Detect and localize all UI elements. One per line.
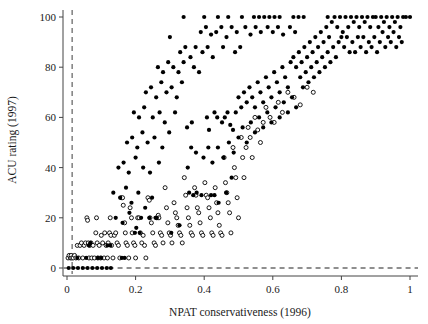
data-point-filled [294, 105, 298, 109]
data-point-filled [356, 35, 360, 39]
data-point-filled [180, 80, 184, 84]
data-point-filled [219, 25, 223, 29]
data-point-filled [280, 65, 284, 69]
data-point-filled [207, 128, 211, 132]
data-point-open [191, 233, 195, 237]
data-point-open [197, 211, 201, 215]
data-point-filled [253, 105, 257, 109]
data-point-filled [163, 120, 167, 124]
data-point-open [226, 201, 230, 205]
data-point-open [160, 233, 164, 237]
data-point-open [234, 176, 238, 180]
data-point-filled [238, 45, 242, 49]
data-point-filled [75, 256, 79, 260]
data-point-filled [195, 191, 199, 195]
data-point-filled [316, 45, 320, 49]
data-point-open [180, 241, 184, 245]
data-point-filled [132, 110, 136, 114]
data-point-filled [339, 35, 343, 39]
data-point-filled [142, 105, 146, 109]
data-point-filled [139, 216, 143, 220]
data-point-filled [353, 50, 357, 54]
data-point-open [133, 243, 137, 247]
data-point-open [223, 181, 227, 185]
data-point-open [123, 231, 127, 235]
data-point-filled [230, 176, 234, 180]
data-point-filled [265, 110, 269, 114]
data-point-open [170, 241, 174, 245]
plot-canvas: 02040608010000.20.40.60.81 NPAT conserva… [0, 0, 428, 324]
data-point-filled [233, 50, 237, 54]
data-point-open [216, 211, 220, 215]
data-point-open [114, 231, 118, 235]
data-point-open [193, 186, 197, 190]
data-point-filled [252, 15, 256, 19]
data-point-filled [286, 85, 290, 89]
data-point-filled [105, 266, 109, 270]
data-point-filled [230, 25, 234, 29]
data-point-open [246, 125, 250, 129]
data-point-open [242, 176, 246, 180]
data-point-filled [278, 90, 282, 94]
data-point-open [184, 193, 188, 197]
data-point-filled [127, 171, 131, 175]
data-point-filled [177, 223, 181, 227]
data-point-filled [282, 100, 286, 104]
data-point-filled [194, 150, 198, 154]
data-point-filled [156, 65, 160, 69]
data-point-filled [221, 155, 225, 159]
data-point-filled [235, 30, 239, 34]
data-point-filled [310, 50, 314, 54]
data-point-filled [134, 155, 138, 159]
data-point-open [198, 221, 202, 225]
data-point-filled [167, 130, 171, 134]
data-point-filled [146, 140, 150, 144]
data-point-filled [254, 25, 258, 29]
data-point-filled [276, 25, 280, 29]
data-point-filled [135, 145, 139, 149]
data-point-filled [216, 145, 220, 149]
data-point-filled [232, 150, 236, 154]
data-point-filled [205, 115, 209, 119]
data-point-open [311, 90, 315, 94]
data-point-open [217, 223, 221, 227]
data-point-filled [240, 15, 244, 19]
data-point-open [258, 141, 262, 145]
data-point-filled [118, 196, 122, 200]
data-point-filled [236, 95, 240, 99]
data-point-open [94, 231, 98, 235]
data-point-filled [346, 25, 350, 29]
data-point-filled [324, 25, 328, 29]
data-point-open [213, 186, 217, 190]
data-point-filled [390, 15, 394, 19]
x-tick-label: 0.8 [335, 283, 349, 295]
data-point-open [207, 206, 211, 210]
data-point-filled [389, 40, 393, 44]
data-point-filled [217, 201, 221, 205]
data-point-filled [289, 60, 293, 64]
data-point-filled [380, 30, 384, 34]
data-point-filled [129, 201, 133, 205]
data-point-open [305, 85, 309, 89]
data-point-filled [133, 231, 137, 235]
data-point-open [244, 146, 248, 150]
data-point-filled [350, 40, 354, 44]
data-point-filled [147, 216, 151, 220]
data-point-filled [159, 80, 163, 84]
data-point-filled [152, 135, 156, 139]
data-point-filled [168, 35, 172, 39]
data-point-open [186, 216, 190, 220]
data-point-filled [160, 145, 164, 149]
data-point-open [121, 203, 125, 207]
data-point-filled [85, 266, 89, 270]
data-point-filled [294, 65, 298, 69]
data-point-open [173, 211, 177, 215]
data-point-open [125, 243, 129, 247]
x-tick-label: 0.6 [266, 283, 280, 295]
data-point-open [250, 156, 254, 160]
data-point-open [103, 231, 107, 235]
data-point-filled [397, 35, 401, 39]
data-point-filled [331, 45, 335, 49]
data-point-filled [394, 45, 398, 49]
data-point-filled [245, 100, 249, 104]
